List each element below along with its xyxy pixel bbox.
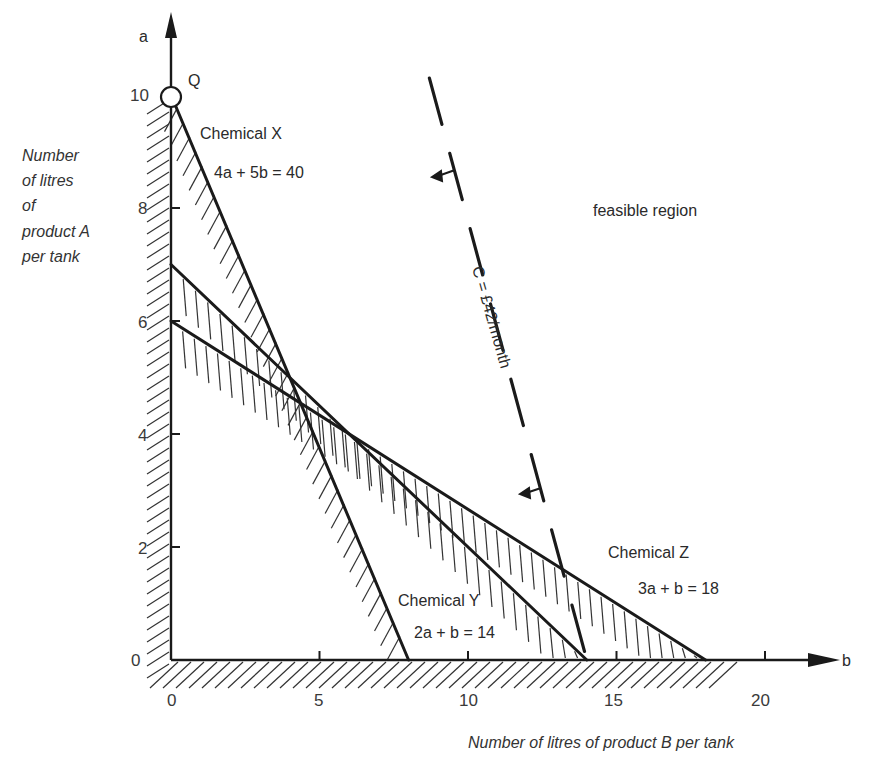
svg-text:Number: Number (22, 147, 80, 164)
chemical-y-name: Chemical Y (398, 592, 480, 609)
y-axis-name: a (139, 28, 148, 45)
point-q-label: Q (188, 72, 200, 89)
chemical-z-name: Chemical Z (608, 544, 689, 561)
chemical-x-name: Chemical X (200, 125, 282, 142)
svg-text:product A: product A (21, 223, 90, 240)
chemical-y-equation: 2a + b = 14 (414, 624, 495, 641)
y-tick-8: 8 (138, 199, 147, 218)
x-axis-label: Number of litres of product B per tank (468, 734, 735, 751)
cost-direction-arrows (432, 170, 541, 498)
cost-line-dashed (429, 78, 586, 660)
y-tick-2: 2 (138, 539, 147, 558)
feasible-region-label: feasible region (593, 202, 697, 219)
chemical-x-equation: 4a + 5b = 40 (214, 164, 304, 181)
y-axis-label: Number of litres of product A per tank (21, 147, 90, 265)
svg-text:of: of (22, 197, 37, 214)
y-tick-4: 4 (138, 426, 147, 445)
y-tick-6: 6 (138, 313, 147, 332)
chemical-y-line (171, 265, 587, 661)
y-tick-10: 10 (130, 86, 149, 105)
x-tick-15: 15 (604, 691, 623, 710)
chemical-z-line (171, 321, 706, 660)
cost-line-label: C = £42/month (469, 264, 514, 370)
y-tick-0: 0 (131, 651, 140, 670)
svg-text:of litres: of litres (22, 172, 74, 189)
chemical-z-equation: 3a + b = 18 (638, 580, 719, 597)
linear-programming-chart: Q a b 10 8 6 4 2 0 0 5 10 15 20 Number o… (0, 0, 870, 757)
x-tick-5: 5 (314, 691, 323, 710)
point-q-marker (161, 87, 181, 107)
arrow-head-icon (432, 171, 442, 181)
arrow-head-icon (520, 488, 530, 498)
x-axis-name: b (842, 652, 851, 669)
x-tick-0: 0 (167, 691, 176, 710)
x-tick-20: 20 (751, 691, 770, 710)
x-axis-arrow-icon (808, 653, 840, 667)
y-axis-arrow-icon (165, 12, 177, 38)
svg-text:per tank: per tank (21, 248, 81, 265)
x-tick-10: 10 (459, 691, 478, 710)
